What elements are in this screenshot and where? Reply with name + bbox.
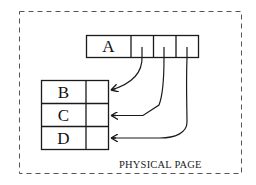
physical-page-caption: PHYSICAL PAGE [119, 159, 202, 170]
record-c-label: C [41, 107, 86, 124]
record-a-label: A [86, 38, 131, 55]
record-d-label: D [41, 130, 86, 147]
pointer-arrow-to-d [111, 47, 187, 138]
diagram-canvas [0, 0, 256, 185]
record-b-label: B [41, 84, 86, 101]
